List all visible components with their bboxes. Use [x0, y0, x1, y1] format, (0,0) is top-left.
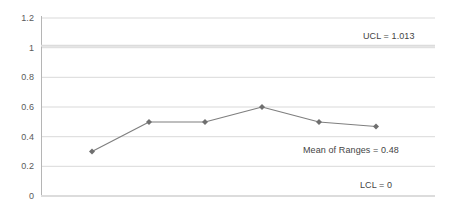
y-tick-label-0.8: 0.8: [8, 72, 34, 82]
y-tick-label-0: 0: [8, 191, 34, 201]
data-point-marker: [146, 119, 152, 125]
data-point-marker: [202, 119, 208, 125]
y-tick-label-1.2: 1.2: [8, 13, 34, 23]
data-point-marker: [259, 104, 265, 110]
y-tick-label-0.6: 0.6: [8, 102, 34, 112]
data-point-marker: [373, 124, 379, 130]
data-point-marker: [316, 119, 322, 125]
ucl-annotation: UCL = 1.013: [363, 31, 415, 41]
y-tick-label-0.2: 0.2: [8, 161, 34, 171]
control-chart: 1.2 1 0.8 0.6 0.4 0.2 0 UCL = 1.013 Mean…: [0, 0, 449, 218]
mean-of-ranges-annotation: Mean of Ranges = 0.48: [303, 145, 399, 155]
y-tick-label-1: 1: [8, 43, 34, 53]
y-tick-label-0.4: 0.4: [8, 132, 34, 142]
data-point-marker: [89, 149, 95, 155]
lcl-annotation: LCL = 0: [360, 180, 392, 190]
